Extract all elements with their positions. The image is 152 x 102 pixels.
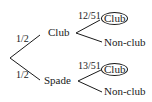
prob-root-club: 1/2 [16,34,29,44]
leaf-club-club-circled: Club [101,12,128,25]
branch-spade-nonclub [78,81,102,92]
prob-spade-club: 13/51 [78,61,101,71]
leaf-spade-nonclub: Non-club [104,86,146,97]
prob-root-spade: 1/2 [16,70,29,80]
leaf-club-nonclub: Non-club [104,37,146,48]
branch-club-club [76,20,100,33]
leaf-spade-club-circled: Club [101,63,128,76]
prob-club-club: 12/51 [78,11,101,21]
node-club: Club [48,27,69,38]
node-spade: Spade [44,75,71,86]
branch-club-nonclub [76,33,102,42]
probability-tree-diagram: 1/2 1/2 Club Spade 12/51 Club Non-club 1… [0,0,152,102]
branch-spade-club [78,70,101,81]
